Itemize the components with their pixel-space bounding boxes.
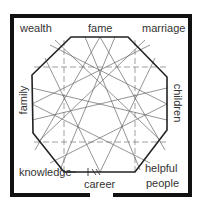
area-label-marriage: marriage xyxy=(142,22,185,34)
dashed-grid xyxy=(34,40,166,172)
octagon xyxy=(32,37,167,172)
area-label-family: family xyxy=(17,81,29,119)
area-label-people: people xyxy=(146,177,179,189)
star-line xyxy=(60,37,115,170)
area-label-wealth: wealth xyxy=(20,22,52,34)
area-label-helpful: helpful xyxy=(145,162,177,174)
area-label-fame: fame xyxy=(88,22,112,34)
area-label-career: career xyxy=(84,178,115,190)
area-label-children: children xyxy=(172,79,184,127)
area-label-knowledge: knowledge xyxy=(19,166,72,178)
star-line xyxy=(85,37,140,170)
